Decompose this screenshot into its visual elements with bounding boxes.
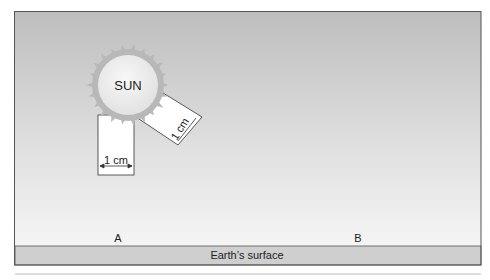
point-a-label: A bbox=[114, 232, 122, 244]
sky-background bbox=[14, 11, 481, 246]
sun-label: SUN bbox=[114, 78, 141, 93]
earth-surface-label: Earth’s surface bbox=[210, 249, 283, 261]
insolation-diagram: SUN 1 cm 1 cm A B Earth’s surface bbox=[0, 0, 490, 280]
point-b-label: B bbox=[354, 232, 361, 244]
vertical-beam-label: 1 cm bbox=[104, 154, 128, 166]
